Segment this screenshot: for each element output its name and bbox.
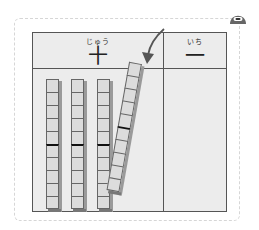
ones-header: いち 一 — [164, 36, 226, 66]
ones-kanji: 一 — [164, 46, 226, 66]
place-value-board: じゅう 十 いち 一 — [32, 32, 227, 212]
ten-rod-2[interactable] — [71, 79, 84, 209]
mascot-icon — [228, 9, 248, 26]
curved-arrow-icon — [140, 28, 170, 66]
ten-rod-1[interactable] — [46, 79, 59, 209]
